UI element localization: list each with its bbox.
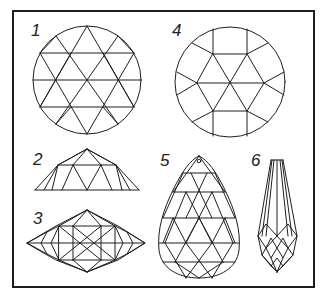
label-3: 3 (33, 209, 43, 228)
label-5: 5 (160, 151, 170, 170)
gem-2-rose-cut-dome (35, 149, 139, 190)
drill-hole-icon (197, 159, 201, 163)
label-2: 2 (32, 150, 43, 169)
gem-5-pear-briolette (159, 156, 240, 278)
gem-4-round-hexagon-star (175, 27, 285, 137)
label-6: 6 (251, 151, 261, 170)
gem-3-double-rose-cut (27, 210, 145, 272)
label-4: 4 (172, 21, 181, 40)
label-1: 1 (31, 21, 40, 40)
gem-cuts-diagram: 1 4 2 3 5 6 (0, 0, 325, 295)
gem-6-drop-briolette (258, 160, 297, 272)
gem-1-round-triangle-grid (33, 26, 141, 134)
